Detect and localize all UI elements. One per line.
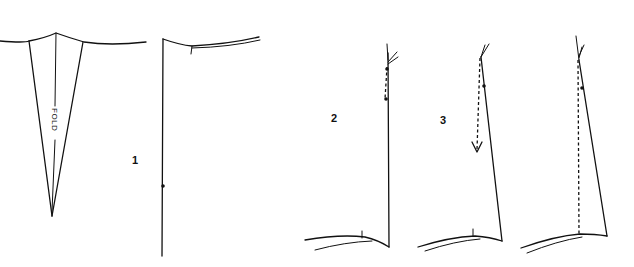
step-2-dashed-line [385,67,387,99]
step-2-panel: 2 [305,44,398,250]
fold-line-top [55,33,56,106]
step-1-vertical-line [162,39,163,256]
dart-left-leg [29,41,52,216]
step-2-top-extension [387,44,388,60]
fold-label: FOLD [50,108,59,131]
step-4-dot [580,86,584,90]
pattern-drawing: FOLD 1 2 3 [0,0,634,267]
step-4-top-extension [576,36,579,60]
step-4-top-mark-b [579,47,582,58]
step-2-hem-inner [315,241,372,250]
step-1-label: 1 [132,154,138,166]
step-3-panel: 3 [418,44,502,251]
step-2-dot-bottom [384,97,388,101]
step-4-slanted-line [579,60,607,236]
dart-waistline [0,33,146,44]
step-4-dashed-line [578,60,579,234]
pattern-diagram: FOLD 1 2 3 [0,0,634,267]
step-3-hem-inner [425,239,480,251]
step-1-waistline-inner [192,40,260,48]
step-2-dot-top [385,67,389,71]
step-2-label: 2 [331,112,337,124]
step-3-label: 3 [440,114,446,126]
step-2-vertical-line [388,53,389,247]
step-1-notch-dot [161,184,165,188]
step-3-dashed-arrow [477,58,480,150]
step-1-waistline-outer [163,37,259,46]
step-3-dot [482,84,486,88]
step-1-panel: 1 [132,37,260,256]
step-4-hem-inner [527,237,582,253]
step-2-hem-outer [305,236,389,247]
step-4-panel [521,36,607,253]
step-1-notch [191,46,192,54]
dart-panel: FOLD [0,33,146,216]
